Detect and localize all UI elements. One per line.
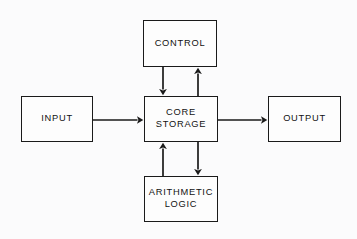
node-output[interactable]: OUTPUT — [268, 96, 341, 142]
node-arithmetic-logic-label: ARITHMETIC LOGIC — [149, 187, 213, 210]
node-arithmetic-logic[interactable]: ARITHMETIC LOGIC — [144, 176, 218, 222]
node-input-label: INPUT — [41, 113, 73, 125]
node-control-label: CONTROL — [155, 38, 206, 50]
node-input[interactable]: INPUT — [21, 96, 93, 142]
node-control[interactable]: CONTROL — [143, 20, 217, 67]
diagram-canvas: CONTROL INPUT CORE STORAGE OUTPUT ARITHM… — [0, 0, 357, 239]
node-core-storage[interactable]: CORE STORAGE — [144, 96, 218, 142]
node-output-label: OUTPUT — [283, 113, 326, 125]
node-core-storage-label: CORE STORAGE — [156, 107, 207, 130]
